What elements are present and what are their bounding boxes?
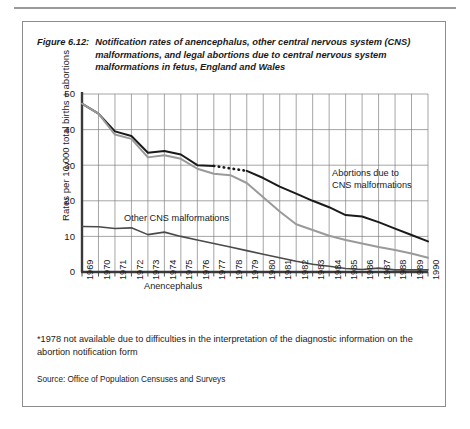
chart-container: Rates per 10,000 total births + abortion… [36,84,434,329]
figure-footnote: *1978 not available due to difficulties … [37,333,433,360]
series-annotation-label: Abortions due toCNS malformations [332,168,412,190]
figure-caption-text: Notification rates of anencephalus, othe… [95,36,435,74]
line-chart-plot: 01020304050Abortions due toCNS malformat… [36,84,434,329]
y-axis-tick: 20 [64,195,75,206]
series-annotation-label: Anencephalus [144,281,203,291]
series-annotation-label: Other CNS malformations [124,213,230,223]
y-axis-tick: 0 [70,266,75,277]
y-axis-tick: 40 [64,124,75,135]
figure-caption: Figure 6.12: Notification rates of anenc… [37,36,435,74]
y-axis-tick: 50 [64,88,75,99]
figure-panel: Figure 6.12: Notification rates of anenc… [22,21,446,407]
top-divider-rule [14,7,456,9]
series-line [82,226,428,269]
figure-source: Source: Office of Population Censuses an… [37,374,433,386]
y-axis-tick: 30 [64,160,75,171]
y-axis-tick: 10 [64,231,75,242]
